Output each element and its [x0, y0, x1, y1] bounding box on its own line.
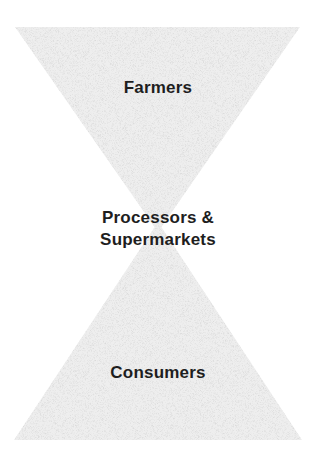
processors-supermarkets-label: Processors & Supermarkets [0, 207, 316, 251]
top-funnel-triangle [15, 27, 300, 232]
consumers-label: Consumers [0, 362, 316, 384]
hourglass-diagram: Farmers Processors & Supermarkets Consum… [0, 0, 316, 463]
processors-label-line: Processors & [0, 207, 316, 229]
supermarkets-label-line: Supermarkets [0, 229, 316, 251]
bottom-pyramid-triangle [14, 222, 302, 440]
farmers-label: Farmers [0, 77, 316, 99]
